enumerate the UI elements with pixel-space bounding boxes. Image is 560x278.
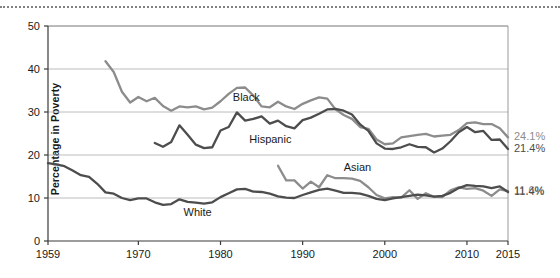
series-label-black: Black [233,91,260,103]
y-axis-tick-label: 10 [14,192,40,204]
series-line-hispanic [155,109,508,152]
y-axis-tick-label: 20 [14,149,40,161]
end-value-hispanic: 21.4% [514,142,545,154]
series-label-hispanic: Hispanic [249,133,291,145]
x-axis-tick-label: 2000 [373,248,397,260]
series-label-asian: Asian [344,161,372,173]
y-axis-tick-label: 50 [14,20,40,32]
end-value-white: 11.4% [514,185,544,197]
series-line-asian [278,166,508,199]
poverty-rate-chart: Percentage in Poverty 010203040501959197… [0,0,560,278]
y-axis-tick-label: 30 [14,106,40,118]
x-axis-tick-label: 1970 [126,248,150,260]
end-value-black: 24.1% [514,130,545,142]
series-line-black [106,61,509,144]
y-axis-tick-label: 0 [14,235,40,247]
series-label-white: White [184,206,212,218]
x-axis-tick-label: 1990 [290,248,314,260]
y-axis-tick-label: 40 [14,63,40,75]
x-axis-tick-label: 1959 [36,248,60,260]
x-axis-tick-label: 1980 [208,248,232,260]
x-axis-tick-label: 2015 [496,248,520,260]
series-line-white [48,163,508,205]
x-axis-tick-label: 2010 [455,248,479,260]
